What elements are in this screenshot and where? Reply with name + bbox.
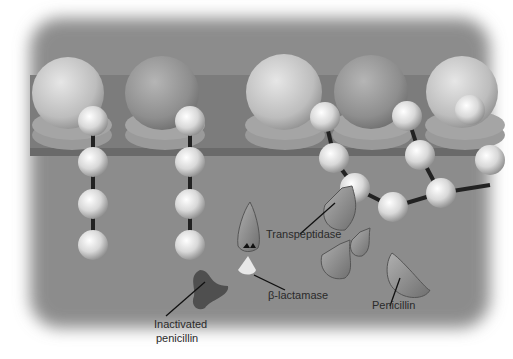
diagram: Transpeptidase β-lactamase Penicillin In… (0, 0, 513, 359)
label-beta-lactamase: β-lactamase (268, 289, 328, 302)
label-penicillin: Penicillin (372, 299, 415, 312)
label-inactivated-line1: Inactivated (154, 318, 207, 331)
diagram-artwork (0, 0, 513, 359)
label-inactivated-line2: penicillin (156, 332, 198, 345)
label-transpeptidase: Transpeptidase (266, 228, 341, 241)
